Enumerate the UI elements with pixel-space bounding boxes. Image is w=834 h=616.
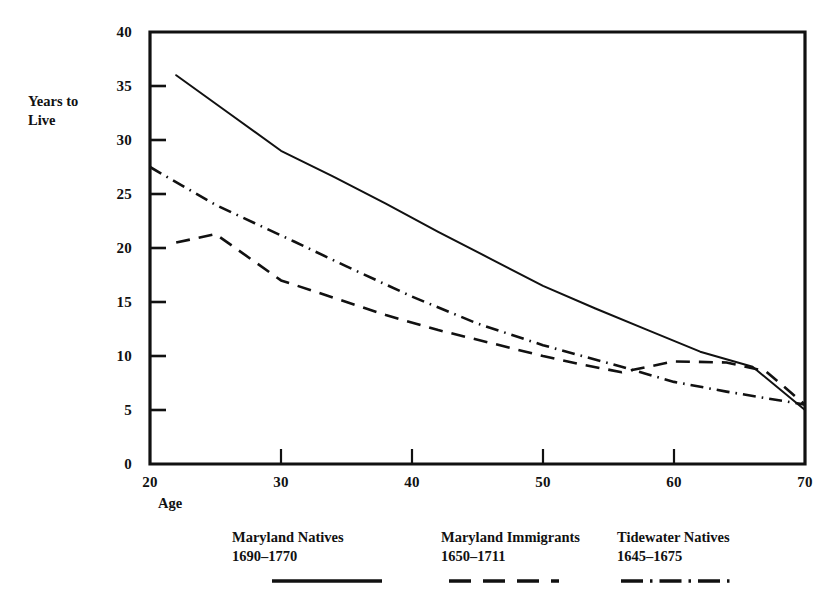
legend-swatch-dash-dot: [621, 576, 731, 586]
legend-period-tidewater-natives: 1645–1675: [617, 547, 730, 566]
series-line-tidewater-natives: [150, 167, 805, 405]
legend-entry-maryland-natives: Maryland Natives 1690–1770: [232, 528, 344, 566]
legend-label-maryland-natives: Maryland Natives: [232, 528, 344, 547]
legend-period-maryland-natives: 1690–1770: [232, 547, 344, 566]
legend-entry-tidewater-natives: Tidewater Natives 1645–1675: [617, 528, 730, 566]
life-expectancy-chart: Years to Live 40 35 30 25 20 15 10 5 0 2…: [0, 0, 834, 616]
y-axis-ticks: [150, 86, 166, 410]
legend-entry-maryland-immigrants: Maryland Immigrants 1650–1711: [441, 528, 580, 566]
legend-label-tidewater-natives: Tidewater Natives: [617, 528, 730, 547]
legend-label-maryland-immigrants: Maryland Immigrants: [441, 528, 580, 547]
plot-area: [0, 0, 834, 616]
legend-swatch-dashed: [449, 576, 559, 586]
axis-frame: [150, 32, 805, 464]
legend-period-maryland-immigrants: 1650–1711: [441, 547, 580, 566]
legend-swatch-solid: [272, 576, 382, 586]
series-line-maryland-natives: [176, 75, 805, 410]
x-axis-ticks: [281, 449, 674, 464]
chart-legend: Maryland Natives 1690–1770 Maryland Immi…: [0, 528, 834, 608]
